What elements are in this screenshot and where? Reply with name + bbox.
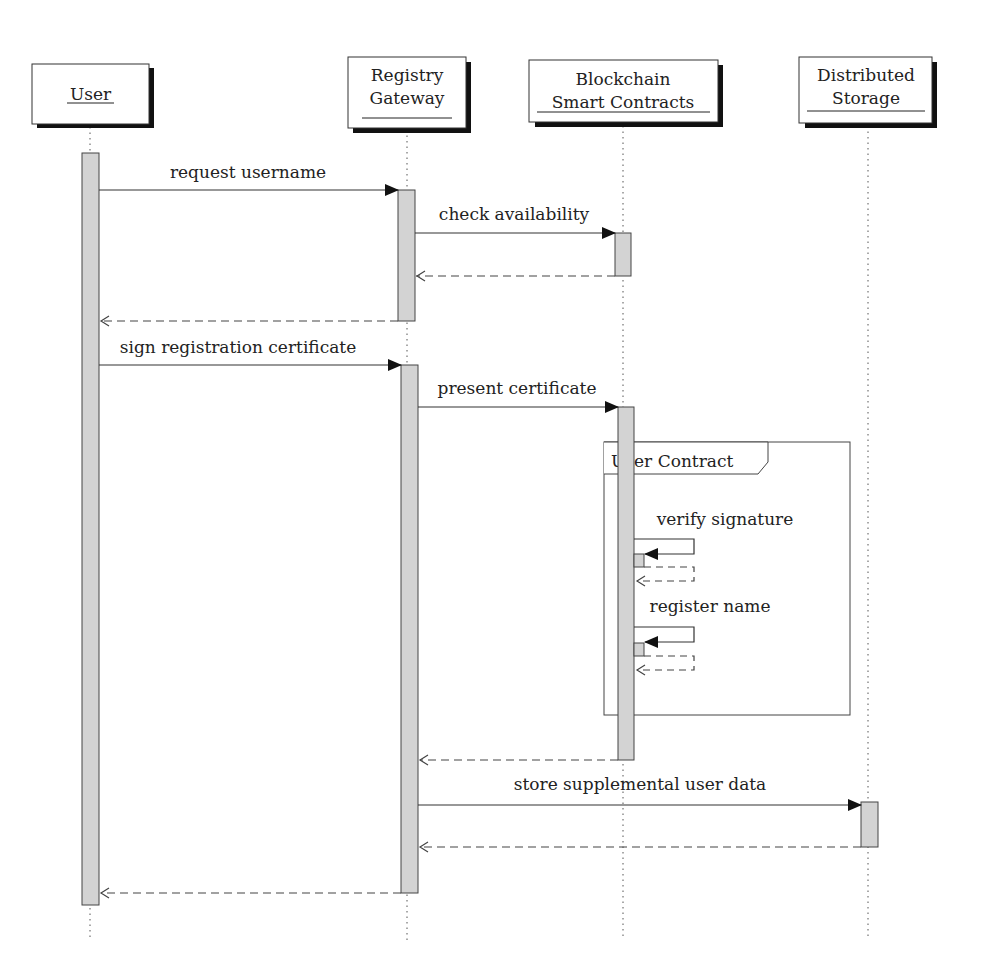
participant-label-line1: Blockchain — [576, 69, 671, 89]
sequence-diagram: User Registry Gateway Blockchain Smart C… — [0, 0, 989, 979]
participant-blockchain[interactable]: Blockchain Smart Contracts — [529, 60, 723, 127]
activation-gateway-2 — [401, 365, 418, 893]
message-label: present certificate — [438, 378, 597, 398]
participant-label-line1: Distributed — [817, 65, 915, 85]
message-label: store supplemental user data — [514, 774, 767, 794]
activation-gateway-1 — [398, 190, 415, 321]
activation-self-register — [634, 643, 644, 656]
participant-label-line1: Registry — [371, 65, 444, 85]
message-label: request username — [170, 162, 326, 182]
activation-blockchain-2 — [618, 407, 634, 760]
participant-label-line2: Gateway — [370, 88, 445, 108]
message-label: sign registration certificate — [120, 337, 356, 357]
activation-storage — [861, 802, 878, 847]
message-label: check availability — [439, 204, 590, 224]
message-store-user-data: store supplemental user data — [418, 774, 861, 805]
participant-label-line2: Smart Contracts — [552, 92, 695, 112]
message-return-username — [101, 316, 398, 326]
message-return-final — [101, 888, 401, 898]
message-label: register name — [650, 596, 771, 616]
message-present-certificate: present certificate — [418, 378, 618, 407]
participant-label-line2: Storage — [832, 88, 900, 108]
activation-user — [82, 153, 99, 905]
message-return-availability — [416, 271, 615, 281]
message-sign-certificate: sign registration certificate — [99, 337, 401, 365]
message-request-username: request username — [99, 162, 398, 190]
participant-gateway[interactable]: Registry Gateway — [348, 57, 471, 133]
activation-self-verify — [634, 554, 644, 567]
participant-storage[interactable]: Distributed Storage — [799, 57, 937, 128]
message-check-availability: check availability — [415, 204, 615, 233]
message-return-storage — [420, 842, 861, 852]
participant-user[interactable]: User — [32, 64, 154, 128]
message-return-certificate — [420, 755, 618, 765]
activation-blockchain-1 — [615, 233, 631, 276]
message-label: verify signature — [656, 509, 794, 529]
participant-label: User — [70, 84, 112, 104]
